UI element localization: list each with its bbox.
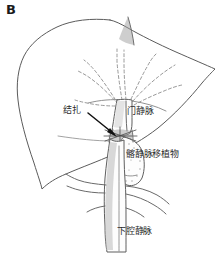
portal-branch-right-b: [134, 85, 182, 105]
ivc-branch-left-upper: [66, 174, 106, 185]
figure-panel: B: [0, 0, 224, 255]
portal-branch-left-lateral: [75, 100, 115, 106]
ivc-branch-left-upper-lower: [67, 186, 105, 193]
liver-lower-edge-fold: [58, 136, 112, 141]
portal-branch-mid-right: [131, 54, 156, 99]
label-inferior-vena-cava: 下腔静脉: [117, 227, 152, 236]
portal-branch-mid-left-b: [124, 50, 126, 100]
portal-branch-left-upper-b: [78, 71, 118, 104]
label-ligation: 结扎: [63, 106, 81, 115]
ivc-branch-left-lower: [87, 206, 105, 212]
anatomy-illustration: [0, 0, 224, 255]
portal-branch-left-upper: [84, 60, 118, 104]
portal-branch-mid-left: [117, 49, 122, 100]
label-iliac-vein-graft: 髂静脉移植物: [126, 150, 179, 159]
ivc-branch-right-lower: [126, 208, 144, 217]
label-portal-vein: 门静脉: [127, 107, 153, 116]
intrahepatic-portal-branches: [75, 49, 182, 106]
